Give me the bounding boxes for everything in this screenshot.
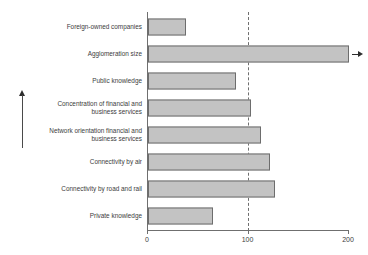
bar-row: Connectivity by road and rail [0,176,368,202]
bar [148,154,270,171]
bar [148,19,186,36]
bar-category-label: Connectivity by road and rail [2,185,142,193]
bar-category-label: Concentration of financial and business … [2,100,142,116]
bar-row: Private knowledge [0,203,368,229]
x-axis-tick [248,230,249,234]
x-axis-tick-label: 200 [342,236,354,243]
bar [148,73,236,90]
bar-row: Network orientation financial and busine… [0,122,368,148]
bar-row: Agglomeration size [0,41,368,67]
bar [148,46,349,63]
bar-category-label: Public knowledge [2,77,142,85]
bar-row: Foreign-owned companies [0,14,368,40]
bar-row: Concentration of financial and business … [0,95,368,121]
x-axis-tick [348,230,349,234]
bar [148,100,251,117]
x-axis-tick-label: 100 [242,236,254,243]
bar [148,181,275,198]
bar-category-label: Network orientation financial and busine… [2,127,142,143]
bar-category-label: Agglomeration size [2,50,142,58]
bar-category-label: Foreign-owned companies [2,23,142,31]
bar-chart: Foreign-owned companiesAgglomeration siz… [0,0,368,255]
bar [148,127,261,144]
bar-category-label: Connectivity by air [2,158,142,166]
x-axis-tick-label: 0 [145,236,149,243]
bar-row: Public knowledge [0,68,368,94]
x-axis-tick [147,230,148,234]
bar-category-label: Private knowledge [2,212,142,220]
bar [148,208,213,225]
arrow-head [358,51,363,57]
bar-row: Connectivity by air [0,149,368,175]
